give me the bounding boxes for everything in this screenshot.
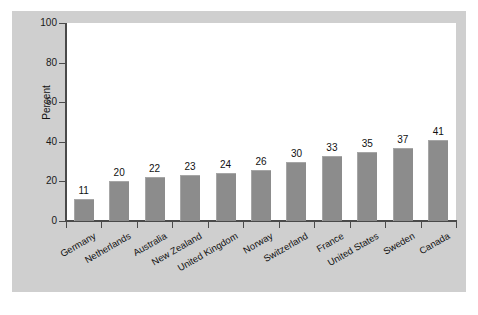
x-tick-mark bbox=[350, 222, 351, 228]
y-tick-mark bbox=[59, 221, 66, 222]
bar bbox=[109, 181, 129, 221]
x-tick-mark bbox=[66, 222, 67, 228]
bar bbox=[286, 162, 306, 221]
y-tick-mark bbox=[59, 142, 66, 143]
y-tick-mark bbox=[59, 181, 66, 182]
x-tick-mark bbox=[421, 222, 422, 228]
bar bbox=[74, 199, 94, 221]
bar bbox=[251, 170, 271, 221]
bar-value-label: 33 bbox=[312, 142, 352, 153]
x-tick-mark bbox=[314, 222, 315, 228]
y-tick-mark bbox=[59, 23, 66, 24]
bar bbox=[357, 152, 377, 221]
bar-value-label: 22 bbox=[135, 163, 175, 174]
bar-chart-figure: Percent 020406080100 1120222324263033353… bbox=[0, 0, 478, 315]
x-tick-mark bbox=[208, 222, 209, 228]
bar-value-label: 26 bbox=[241, 156, 281, 167]
y-tick-label: 80 bbox=[46, 58, 57, 68]
y-tick-mark bbox=[59, 63, 66, 64]
bar-value-label: 41 bbox=[418, 126, 458, 137]
y-tick-label: 0 bbox=[51, 216, 57, 226]
y-tick-label: 100 bbox=[40, 18, 57, 28]
bar-value-label: 23 bbox=[170, 161, 210, 172]
y-tick-label: 20 bbox=[46, 176, 57, 186]
x-tick-mark bbox=[279, 222, 280, 228]
bar bbox=[322, 156, 342, 221]
bar-value-label: 30 bbox=[276, 148, 316, 159]
bar-value-label: 37 bbox=[383, 134, 423, 145]
bar bbox=[428, 140, 448, 221]
bar-value-label: 24 bbox=[206, 159, 246, 170]
x-tick-mark bbox=[243, 222, 244, 228]
bar-value-label: 20 bbox=[99, 167, 139, 178]
bar bbox=[393, 148, 413, 221]
x-tick-mark bbox=[456, 222, 457, 228]
bar bbox=[180, 175, 200, 221]
x-tick-mark bbox=[172, 222, 173, 228]
x-tick-mark bbox=[385, 222, 386, 228]
bar bbox=[216, 173, 236, 221]
bar-value-label: 35 bbox=[347, 138, 387, 149]
x-tick-mark bbox=[101, 222, 102, 228]
x-tick-mark bbox=[137, 222, 138, 228]
y-tick-label: 60 bbox=[46, 97, 57, 107]
bar-value-label: 11 bbox=[64, 185, 104, 196]
y-tick-mark bbox=[59, 102, 66, 103]
bar bbox=[145, 177, 165, 221]
y-tick-label: 40 bbox=[46, 137, 57, 147]
